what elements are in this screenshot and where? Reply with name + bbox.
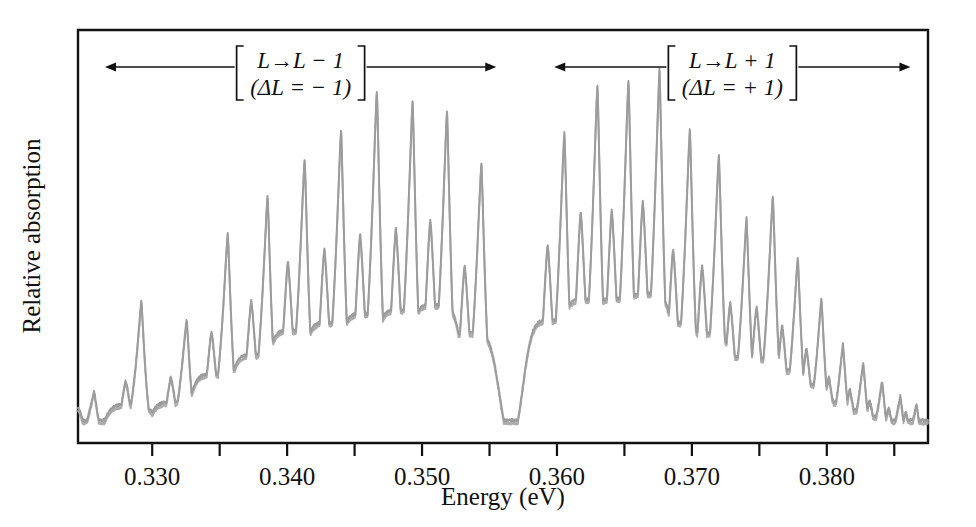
branch-transition-initial: L	[256, 48, 270, 73]
branch-selection-rule-label: (ΔL = + 1)	[682, 75, 783, 100]
x-axis-tick-label: 0.340	[259, 463, 315, 490]
x-axis-tick-label: 0.330	[124, 463, 180, 490]
branch-transition-arrow-glyph: →	[270, 48, 293, 73]
figure-background	[0, 0, 976, 527]
absorption-spectrum-figure: 0.3300.3400.3500.3600.3700.380 L→L − 1(Δ…	[0, 0, 976, 527]
x-axis-title: Energy (eV)	[441, 483, 565, 511]
branch-transition-label: L→L − 1	[256, 48, 344, 73]
figure-root: 0.3300.3400.3500.3600.3700.380 L→L − 1(Δ…	[0, 0, 976, 527]
y-axis-title: Relative absorption	[18, 138, 45, 334]
branch-selection-rule-label: (ΔL = − 1)	[250, 75, 351, 100]
branch-transition-final: L + 1	[724, 48, 776, 73]
x-axis-tick-label: 0.370	[664, 463, 720, 490]
x-axis-tick-label: 0.380	[799, 463, 855, 490]
branch-transition-initial: L	[688, 48, 702, 73]
branch-transition-label: L→L + 1	[688, 48, 776, 73]
branch-transition-final: L − 1	[292, 48, 344, 73]
branch-transition-arrow-glyph: →	[702, 48, 725, 73]
